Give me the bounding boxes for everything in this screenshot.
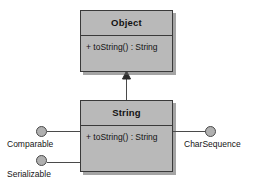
- interface-label-serializable: Serializable: [7, 170, 51, 179]
- class-box-object[interactable]: Object + toString() : String: [80, 10, 173, 72]
- class-box-string[interactable]: String + toString() : String: [80, 100, 173, 172]
- interface-ball-charsequence[interactable]: [205, 126, 216, 137]
- interface-ball-serializable[interactable]: [36, 155, 47, 166]
- interface-connector-serializable: [47, 162, 80, 163]
- interface-label-comparable: Comparable: [7, 140, 53, 149]
- generalization-line: [126, 72, 127, 101]
- class-name-string: String: [81, 101, 172, 126]
- interface-ball-comparable[interactable]: [36, 126, 47, 137]
- class-method-string-tostring: + toString() : String: [81, 126, 172, 148]
- uml-diagram-canvas: Object + toString() : String String + to…: [0, 0, 255, 188]
- interface-connector-charsequence: [173, 131, 206, 132]
- interface-connector-comparable: [47, 131, 80, 132]
- class-method-object-tostring: + toString() : String: [81, 36, 172, 58]
- interface-label-charsequence: CharSequence: [184, 140, 241, 149]
- class-name-object: Object: [81, 11, 172, 36]
